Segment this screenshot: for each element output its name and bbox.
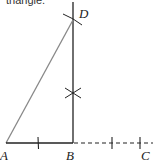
label-b: B <box>66 148 74 163</box>
label-a: A <box>0 148 8 163</box>
label-c: C <box>141 148 150 163</box>
segment-ad <box>6 20 73 143</box>
label-d: D <box>78 6 89 21</box>
construction-diagram: A B C D <box>0 0 165 167</box>
tick-mark-ab <box>38 137 39 149</box>
